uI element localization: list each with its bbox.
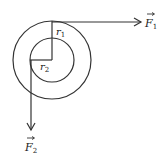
svg-text:F1: F1: [144, 17, 157, 31]
label-f1: F1: [144, 13, 157, 32]
label-r2: r2: [40, 61, 49, 74]
label-f2: F2: [24, 137, 37, 156]
label-r1: r1: [56, 26, 65, 39]
diagram-canvas: r1 r2 F1 F2: [0, 0, 167, 159]
svg-text:F2: F2: [24, 141, 37, 155]
